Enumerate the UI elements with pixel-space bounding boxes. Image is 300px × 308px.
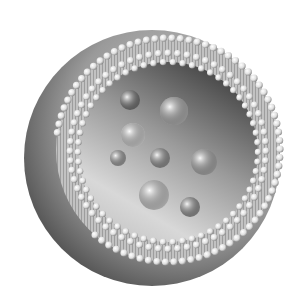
liposome-illustration (0, 0, 300, 308)
liposome-graphic (0, 0, 300, 308)
